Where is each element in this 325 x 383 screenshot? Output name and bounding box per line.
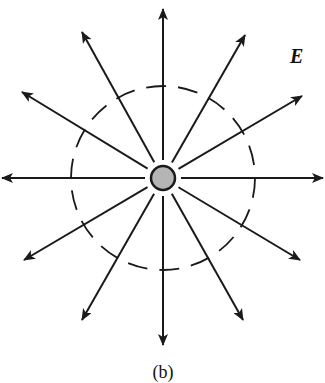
figure-caption: (b) bbox=[153, 362, 174, 383]
field-line-right-down bbox=[178, 187, 300, 260]
field-line-right-up bbox=[179, 96, 302, 169]
point-charge bbox=[151, 166, 175, 190]
electric-field-diagram: E (b) bbox=[0, 0, 325, 383]
field-label: E bbox=[289, 45, 303, 67]
field-line-down-right bbox=[172, 194, 243, 320]
field-line-up-left bbox=[82, 32, 154, 162]
field-line-left-down bbox=[24, 187, 147, 260]
field-line-down-left bbox=[82, 194, 154, 320]
field-line-left-up bbox=[22, 92, 148, 169]
field-line-up-right bbox=[172, 35, 245, 162]
